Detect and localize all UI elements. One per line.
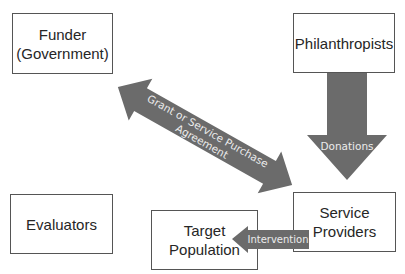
funder-box: Funder (Government): [12, 13, 113, 74]
funder-label-line2: (Government): [16, 44, 109, 63]
funder-label-line1: Funder: [16, 25, 109, 44]
agreement-double-arrow: Grant or Service Purchase Agreement: [106, 66, 304, 206]
donations-arrow: Donations: [307, 73, 387, 180]
service-providers-box: Service Providers: [293, 192, 396, 252]
agreement-label-line1: Grant or Service Purchase: [145, 92, 270, 170]
target-population-label-line1: Target: [169, 221, 240, 240]
target-population-box: Target Population: [151, 210, 258, 270]
philanthropists-label: Philanthropists: [295, 34, 393, 53]
service-providers-label-line2: Providers: [313, 222, 376, 241]
target-population-label-line2: Population: [169, 240, 240, 259]
donations-label: Donations: [320, 140, 373, 152]
evaluators-label: Evaluators: [26, 215, 97, 234]
philanthropists-box: Philanthropists: [293, 13, 395, 73]
evaluators-box: Evaluators: [10, 194, 113, 254]
service-providers-label-line1: Service: [313, 203, 376, 222]
